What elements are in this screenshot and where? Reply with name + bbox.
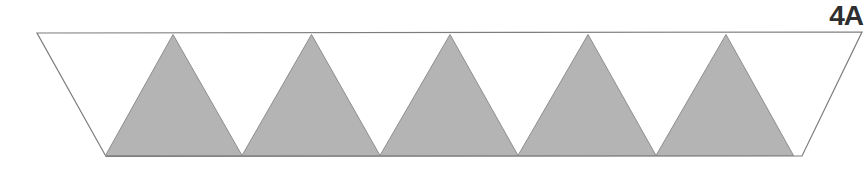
figure-label: 4A xyxy=(829,2,863,30)
figure-page: 4A xyxy=(0,0,865,172)
figure-canvas xyxy=(0,0,865,172)
